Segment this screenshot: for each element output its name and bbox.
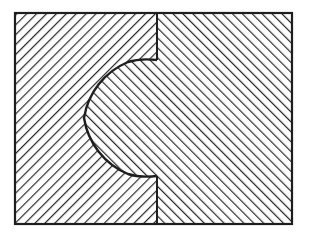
hatched-diagram bbox=[0, 0, 313, 240]
